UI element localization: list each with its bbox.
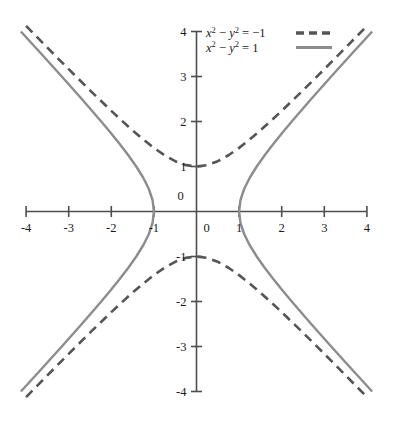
y-tick-label: -2: [176, 295, 186, 309]
legend-label: x2 − y2 = −1: [205, 25, 266, 41]
y-tick-label: 1: [180, 160, 186, 174]
y-tick-label: 2: [180, 115, 186, 129]
legend: x2 − y2 = −1x2 − y2 = 1: [205, 25, 332, 55]
y-origin-label: 0: [177, 189, 183, 203]
plot-canvas: -4-3-2-112344321-1-2-3-400 x2 − y2 = −1x…: [0, 0, 394, 423]
hyperbola-plot: -4-3-2-112344321-1-2-3-400 x2 − y2 = −1x…: [0, 0, 394, 423]
y-tick-label: -1: [176, 250, 186, 264]
x-tick-label: -3: [63, 221, 73, 235]
x-tick-label: 3: [321, 221, 327, 235]
y-tick-label: 4: [180, 25, 187, 39]
legend-label: x2 − y2 = 1: [205, 39, 259, 55]
y-tick-label: -4: [176, 385, 187, 399]
x-tick-label: -2: [106, 221, 116, 235]
x-tick-label: -4: [21, 221, 32, 235]
x-tick-label: 1: [236, 221, 242, 235]
x-origin-label: 0: [203, 221, 209, 235]
axes: [26, 32, 367, 392]
x-tick-label: -1: [149, 221, 159, 235]
y-tick-label: -3: [176, 340, 186, 354]
x-tick-label: 4: [364, 221, 371, 235]
x-tick-label: 2: [279, 221, 285, 235]
y-tick-label: 3: [180, 70, 186, 84]
